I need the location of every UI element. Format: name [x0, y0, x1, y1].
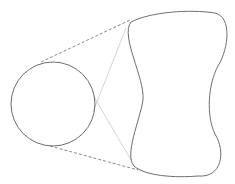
- target-bow-shape: [128, 11, 227, 176]
- source-circle: [11, 62, 95, 146]
- diagram-canvas: [0, 0, 235, 184]
- guide-lines: [93, 28, 131, 160]
- dashed-tangent-line: [41, 20, 130, 62]
- guide-line: [93, 95, 131, 160]
- guide-line: [93, 28, 126, 112]
